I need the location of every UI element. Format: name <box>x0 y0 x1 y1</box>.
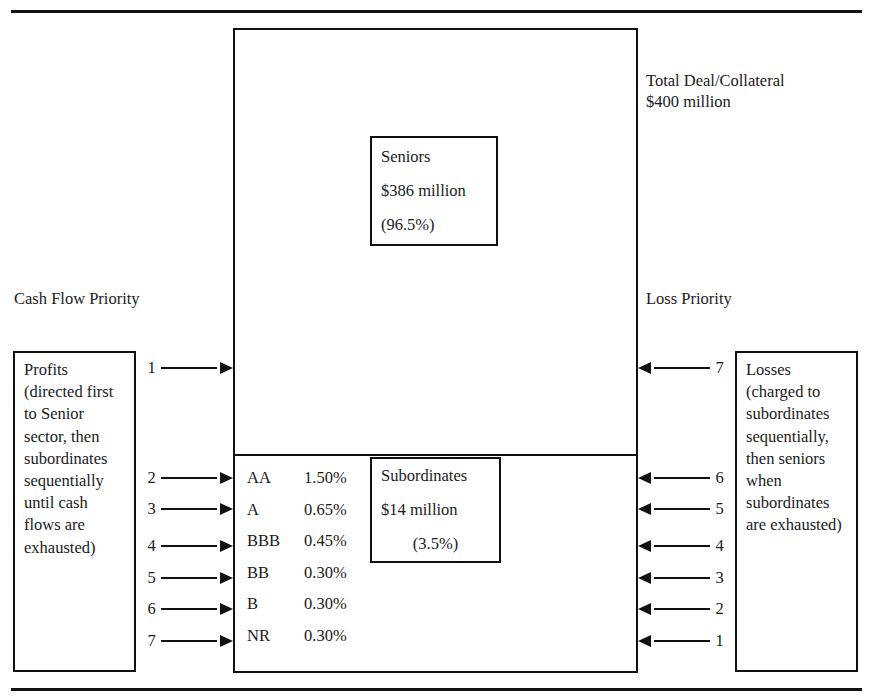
tranche-row: A0.65% <box>247 494 367 526</box>
tranche-row: B0.30% <box>247 588 367 620</box>
arrow-head-right-icon <box>220 362 233 374</box>
arrow-shaft <box>654 608 710 610</box>
loss-arrow: 5 <box>638 499 726 519</box>
tranche-row: AA1.50% <box>247 462 367 494</box>
tranche-rate: 0.30% <box>304 588 347 620</box>
loss-arrow-number: 7 <box>713 358 726 378</box>
total-deal-caption: Total Deal/Collateral $400 million <box>646 70 785 112</box>
tranche-row: BB0.30% <box>247 557 367 589</box>
tranche-rating: BBB <box>247 525 280 557</box>
cash-flow-arrow-number: 7 <box>145 631 158 651</box>
cash-flow-arrow-number: 2 <box>145 468 158 488</box>
profits-note-text: Profits (directed first to Senior sector… <box>24 359 128 559</box>
loss-arrow-number: 5 <box>713 499 726 519</box>
arrow-head-left-icon <box>638 540 651 552</box>
bottom-rule <box>11 688 862 691</box>
arrow-shaft <box>161 608 217 610</box>
arrow-shaft <box>654 545 710 547</box>
seniors-box: Seniors $386 million (96.5%) <box>370 136 498 246</box>
loss-arrow-number: 2 <box>713 599 726 619</box>
cash-flow-arrow-number: 1 <box>145 358 158 378</box>
tranche-row: NR0.30% <box>247 620 367 652</box>
loss-arrow-number: 3 <box>713 568 726 588</box>
diagram-canvas: Seniors $386 million (96.5%) Subordinate… <box>0 0 872 699</box>
arrow-head-right-icon <box>220 603 233 615</box>
arrow-shaft <box>161 577 217 579</box>
senior-subordinate-divider <box>233 454 638 456</box>
losses-note-box: Losses (charged to subordinates sequenti… <box>735 351 858 672</box>
subordinates-amount: $14 million <box>381 493 490 527</box>
tranche-rating: NR <box>247 620 270 652</box>
arrow-shaft <box>654 367 710 369</box>
tranche-rating: AA <box>247 462 271 494</box>
arrow-head-right-icon <box>220 572 233 584</box>
tranche-rating: A <box>247 494 259 526</box>
loss-arrow: 6 <box>638 468 726 488</box>
arrow-shaft <box>161 640 217 642</box>
loss-arrow-number: 1 <box>713 631 726 651</box>
tranche-rate: 0.30% <box>304 557 347 589</box>
tranche-rating: B <box>247 588 258 620</box>
cash-flow-arrow: 7 <box>145 631 233 651</box>
arrow-shaft <box>654 640 710 642</box>
losses-note-text: Losses (charged to subordinates sequenti… <box>746 359 850 537</box>
cash-flow-arrow: 6 <box>145 599 233 619</box>
arrow-head-left-icon <box>638 362 651 374</box>
arrow-head-left-icon <box>638 635 651 647</box>
cash-flow-arrow: 1 <box>145 358 233 378</box>
cash-flow-arrow-number: 3 <box>145 499 158 519</box>
arrow-shaft <box>161 545 217 547</box>
tranche-row: BBB0.45% <box>247 525 367 557</box>
cash-flow-priority-heading: Cash Flow Priority <box>14 288 140 309</box>
arrow-head-left-icon <box>638 603 651 615</box>
loss-arrow-number: 4 <box>713 536 726 556</box>
arrow-head-right-icon <box>220 503 233 515</box>
arrow-shaft <box>654 477 710 479</box>
loss-arrow: 1 <box>638 631 726 651</box>
arrow-head-right-icon <box>220 540 233 552</box>
loss-arrow-number: 6 <box>713 468 726 488</box>
arrow-shaft <box>654 508 710 510</box>
arrow-shaft <box>161 508 217 510</box>
loss-arrow: 2 <box>638 599 726 619</box>
loss-arrow: 3 <box>638 568 726 588</box>
cash-flow-arrow: 5 <box>145 568 233 588</box>
arrow-shaft <box>654 577 710 579</box>
top-rule <box>11 10 862 13</box>
tranche-table: AA1.50%A0.65%BBB0.45%BB0.30%B0.30%NR0.30… <box>247 462 367 652</box>
arrow-head-right-icon <box>220 472 233 484</box>
subordinates-percent: (3.5%) <box>381 527 490 561</box>
arrow-head-right-icon <box>220 635 233 647</box>
cash-flow-arrow-number: 6 <box>145 599 158 619</box>
loss-arrow: 4 <box>638 536 726 556</box>
cash-flow-arrow-number: 4 <box>145 536 158 556</box>
cash-flow-arrow: 4 <box>145 536 233 556</box>
tranche-rating: BB <box>247 557 269 589</box>
arrow-shaft <box>161 477 217 479</box>
seniors-percent: (96.5%) <box>381 208 487 242</box>
tranche-rate: 0.65% <box>304 494 347 526</box>
tranche-rate: 1.50% <box>304 462 347 494</box>
tranche-rate: 0.45% <box>304 525 347 557</box>
subordinates-label: Subordinates <box>381 459 490 493</box>
seniors-amount: $386 million <box>381 174 487 208</box>
cash-flow-arrow: 3 <box>145 499 233 519</box>
arrow-head-left-icon <box>638 572 651 584</box>
loss-arrow: 7 <box>638 358 726 378</box>
loss-priority-heading: Loss Priority <box>646 288 732 309</box>
tranche-rate: 0.30% <box>304 620 347 652</box>
seniors-label: Seniors <box>381 140 487 174</box>
arrow-head-left-icon <box>638 472 651 484</box>
arrow-head-left-icon <box>638 503 651 515</box>
profits-note-box: Profits (directed first to Senior sector… <box>13 351 136 672</box>
arrow-shaft <box>161 367 217 369</box>
cash-flow-arrow-number: 5 <box>145 568 158 588</box>
subordinates-box: Subordinates $14 million (3.5%) <box>370 457 501 563</box>
cash-flow-arrow: 2 <box>145 468 233 488</box>
